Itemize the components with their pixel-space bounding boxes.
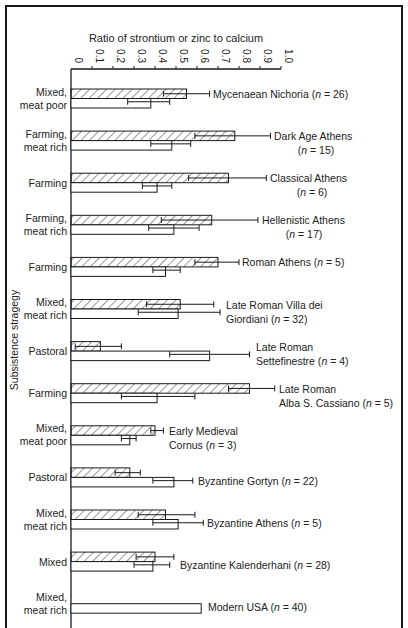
tick-label: 0.3 — [136, 49, 147, 63]
strategy-label: meat rich — [24, 225, 67, 237]
site-label: Giordiani (n = 32) — [226, 313, 307, 325]
site-label: Modern USA (n = 40) — [208, 601, 307, 613]
zinc-bar — [71, 562, 153, 572]
bar-group: Mixed,meat richLate Roman Villa deiGiord… — [24, 296, 323, 325]
bar-group: PastoralLate RomanSettefinestre (n = 4) — [28, 341, 348, 367]
zinc-bar — [71, 309, 178, 319]
bar-groups: Mixed,meat poorMycenaean Nichoria (n = 2… — [20, 86, 393, 616]
y-axis-title: Subsistence stragegy — [8, 289, 20, 390]
bar-group: Farming,meat richHellenistic Athens(n = … — [24, 212, 345, 241]
tick-label: 1.0 — [283, 49, 294, 63]
tick-label: 0.7 — [220, 49, 231, 63]
strontium-bar — [71, 426, 155, 436]
strategy-label: Pastoral — [28, 345, 67, 357]
zinc-bar — [71, 99, 151, 109]
strategy-label: Mixed, — [36, 86, 67, 98]
x-axis-title: Ratio of strontium or zinc to calcium — [89, 32, 263, 44]
strategy-label: Mixed, — [36, 507, 67, 519]
site-label: (n = 17) — [286, 228, 323, 240]
zinc-bar — [71, 225, 174, 235]
strategy-label: meat rich — [24, 520, 67, 532]
tick-label: 0.1 — [94, 49, 105, 63]
zinc-bar — [71, 520, 178, 530]
site-label: (n = 6) — [297, 186, 328, 198]
bar-group: FarmingLate RomanAlba S. Cassiano (n = 5… — [28, 383, 393, 409]
strategy-label: meat rich — [24, 604, 67, 616]
site-label: Byzantine Gortyn (n = 22) — [198, 475, 318, 487]
zinc-bar — [71, 183, 157, 193]
site-label: Late Roman Villa dei — [226, 299, 323, 311]
strategy-label: Farming — [28, 261, 67, 273]
site-label: Byzantine Kalenderhani (n = 28) — [180, 559, 330, 571]
strategy-label: Farming, — [26, 128, 67, 140]
bar-group: PastoralByzantine Gortyn (n = 22) — [28, 468, 317, 487]
strategy-label: meat poor — [20, 99, 68, 111]
strategy-label: meat rich — [24, 141, 67, 153]
strategy-label: meat rich — [24, 309, 67, 321]
bar-group: MixedByzantine Kalenderhani (n = 28) — [39, 552, 330, 571]
strategy-label: Pastoral — [28, 471, 67, 483]
bar-group: Mixed,meat richModern USA (n = 40) — [24, 591, 307, 616]
site-label: Classical Athens — [270, 172, 347, 184]
site-label: Alba S. Cassiano (n = 5) — [279, 397, 393, 409]
bar-group: Mixed,meat poorEarly MedievalCornus (n =… — [20, 422, 238, 451]
tick-label: 0.6 — [199, 49, 210, 63]
strategy-label: Mixed, — [36, 591, 67, 603]
zinc-bar — [71, 141, 172, 151]
site-label: Early Medieval — [169, 425, 238, 437]
tick-label: 0.4 — [157, 49, 168, 63]
site-label: Late Roman — [279, 383, 336, 395]
zinc-bar — [71, 477, 174, 487]
tick-label: 0.8 — [241, 49, 252, 63]
zinc-bar — [71, 267, 166, 277]
site-label: Dark Age Athens — [274, 130, 352, 142]
site-label: Roman Athens (n = 5) — [242, 256, 344, 268]
strategy-label: Farming — [28, 177, 67, 189]
bar-chart: Ratio of strontium or zinc to calcium 00… — [0, 0, 408, 628]
tick-label: 0.5 — [178, 49, 189, 63]
site-label: (n = 15) — [298, 144, 335, 156]
tick-label: 0.9 — [262, 49, 273, 63]
site-label: Cornus (n = 3) — [169, 439, 236, 451]
strategy-label: Mixed, — [36, 422, 67, 434]
zinc-bar — [71, 604, 201, 614]
strategy-label: meat poor — [20, 435, 68, 447]
x-axis-ticks: 00.10.20.30.40.50.60.70.80.91.0 — [73, 49, 294, 69]
strategy-label: Mixed, — [36, 296, 67, 308]
site-label: Byzantine Athens (n = 5) — [207, 517, 322, 529]
strategy-label: Farming — [28, 387, 67, 399]
site-label: Late Roman — [256, 341, 313, 353]
tick-label: 0 — [73, 57, 84, 63]
tick-label: 0.2 — [115, 49, 126, 63]
bar-group: Farming,meat richDark Age Athens(n = 15) — [24, 128, 352, 157]
bar-group: FarmingRoman Athens (n = 5) — [28, 256, 344, 276]
bar-group: Mixed,meat richByzantine Athens (n = 5) — [24, 507, 322, 532]
zinc-bar — [71, 393, 157, 403]
zinc-bar — [71, 351, 210, 361]
site-label: Mycenaean Nichoria (n = 26) — [213, 88, 348, 100]
site-label: Settefinestre (n = 4) — [256, 355, 349, 367]
site-label: Hellenistic Athens — [262, 214, 345, 226]
strontium-bar — [71, 384, 250, 394]
strategy-label: Mixed — [39, 556, 67, 568]
bar-group: Mixed,meat poorMycenaean Nichoria (n = 2… — [20, 86, 348, 111]
bar-group: FarmingClassical Athens(n = 6) — [28, 172, 347, 198]
strategy-label: Farming, — [26, 212, 67, 224]
